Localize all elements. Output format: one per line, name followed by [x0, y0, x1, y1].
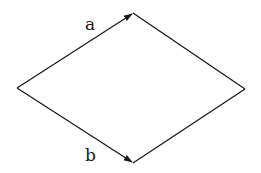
vector-a-label: a	[85, 14, 95, 34]
vector-a	[17, 14, 132, 88]
edge-bottom-right	[133, 89, 245, 163]
parallelogram-diagram: a b	[0, 0, 261, 173]
vector-b-label: b	[85, 145, 96, 165]
edge-top-right	[133, 13, 245, 89]
vector-b	[17, 88, 132, 162]
